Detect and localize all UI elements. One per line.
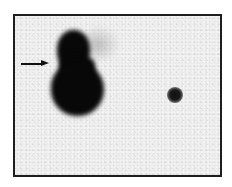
arrow-shaft — [21, 63, 43, 65]
arrow-head — [41, 60, 49, 66]
lower-lobe-uptake — [51, 62, 104, 116]
scan-image-frame — [13, 14, 222, 177]
arrow-right-icon — [21, 60, 50, 67]
small-focal-uptake — [167, 87, 183, 103]
